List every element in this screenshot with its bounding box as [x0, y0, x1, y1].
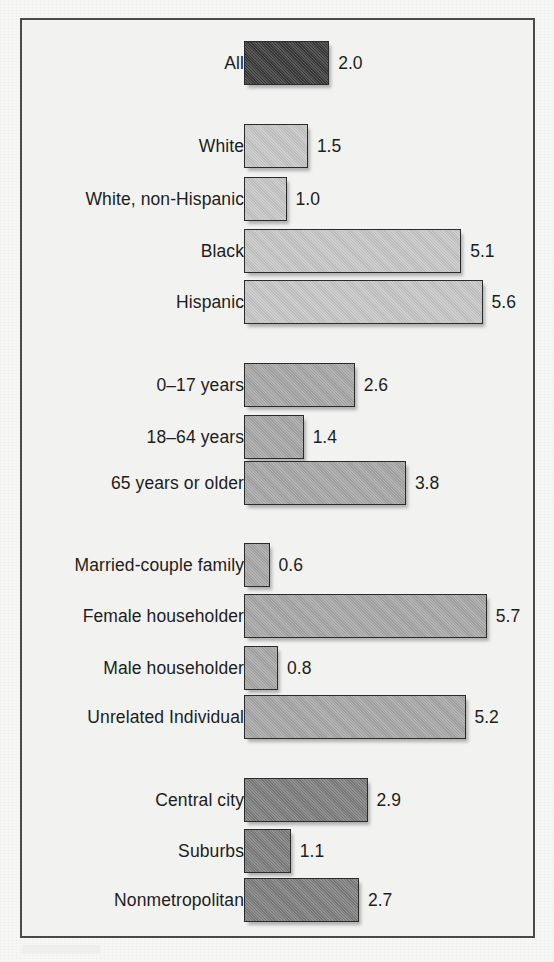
bar-value-label: 5.1: [470, 241, 494, 262]
figure-frame: All2.0White1.5White, non-Hispanic1.0Blac…: [20, 18, 535, 938]
bar-value-label: 2.9: [377, 790, 401, 811]
bar-category-label: 18–64 years: [147, 427, 244, 448]
bar-value-label: 1.1: [300, 841, 324, 862]
bar-shape: [244, 280, 483, 324]
bar-shape: [244, 594, 487, 638]
bar-shape: [244, 41, 329, 85]
bar-shape: [244, 543, 270, 587]
bar-category-label: Married-couple family: [75, 555, 244, 576]
bar-category-label: Male householder: [103, 658, 244, 679]
bar-shape: [244, 229, 461, 273]
bar-shape: [244, 177, 287, 221]
bar-category-label: 65 years or older: [111, 473, 244, 494]
bar-shape: [244, 646, 278, 690]
bar-shape: [244, 363, 355, 407]
bar-value-label: 0.8: [287, 658, 311, 679]
bar-value-label: 2.6: [364, 375, 388, 396]
bar-value-label: 3.8: [415, 473, 439, 494]
bar-category-label: White: [199, 136, 244, 157]
bar-category-label: Black: [201, 241, 244, 262]
bar-shape: [244, 778, 368, 822]
chart-page: All2.0White1.5White, non-Hispanic1.0Blac…: [0, 0, 554, 962]
bar-value-label: 2.7: [368, 890, 392, 911]
bar-value-label: 1.5: [317, 136, 341, 157]
bar-value-label: 5.7: [496, 606, 520, 627]
bar-shape: [244, 878, 359, 922]
bar-category-label: All: [224, 53, 244, 74]
plot-area: All2.0White1.5White, non-Hispanic1.0Blac…: [22, 20, 533, 936]
bar-shape: [244, 415, 304, 459]
bar-category-label: Unrelated Individual: [87, 707, 244, 728]
bar-category-label: Female householder: [83, 606, 244, 627]
bar-category-label: White, non-Hispanic: [86, 189, 245, 210]
bar-category-label: 0–17 years: [156, 375, 244, 396]
bar-category-label: Hispanic: [176, 292, 244, 313]
bar-shape: [244, 124, 308, 168]
bar-value-label: 5.6: [492, 292, 516, 313]
bar-value-label: 5.2: [475, 707, 499, 728]
bar-category-label: Central city: [155, 790, 244, 811]
bar-shape: [244, 695, 466, 739]
bar-shape: [244, 829, 291, 873]
bar-value-label: 1.0: [296, 189, 320, 210]
bar-category-label: Suburbs: [178, 841, 244, 862]
bar-value-label: 1.4: [313, 427, 337, 448]
scan-artifact-mark: [22, 945, 100, 954]
bar-category-label: Nonmetropolitan: [114, 890, 244, 911]
bar-shape: [244, 461, 406, 505]
bar-value-label: 2.0: [338, 53, 362, 74]
bar-value-label: 0.6: [279, 555, 303, 576]
